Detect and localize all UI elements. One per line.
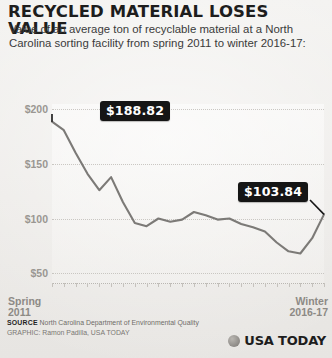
page-subtitle: Value of an average ton of recyclable ma… xyxy=(9,22,326,51)
x-axis-tick xyxy=(182,283,183,287)
line-chart: $50$100$150$200 $188.82 $103.84 Spring 2… xyxy=(0,92,332,297)
x-axis-tick xyxy=(123,283,124,287)
x-axis-tick xyxy=(241,283,242,287)
x-axis-tick xyxy=(229,283,230,287)
globe-icon xyxy=(228,335,240,347)
x-axis-tick xyxy=(312,283,313,287)
source-line: SOURCE North Carolina Department of Envi… xyxy=(7,318,328,327)
y-axis-tick-label: $100 xyxy=(2,213,48,225)
usa-today-logo-text: USA TODAY xyxy=(244,333,326,348)
x-axis-tick xyxy=(289,283,290,287)
x-axis-tick xyxy=(64,283,65,287)
callout-end-leader xyxy=(310,200,324,214)
x-axis-tick xyxy=(52,283,53,287)
x-axis-tick xyxy=(76,283,77,287)
x-axis-tick xyxy=(170,283,171,287)
x-axis-tick xyxy=(147,283,148,287)
x-axis-tick xyxy=(158,283,159,287)
usa-today-logo: USA TODAY xyxy=(228,333,326,348)
x-axis-label-left-line1: Spring xyxy=(8,295,41,307)
y-axis-tick-label: $50 xyxy=(2,267,48,279)
x-axis-tick xyxy=(218,283,219,287)
x-axis-tick xyxy=(324,283,325,287)
x-axis-tick xyxy=(194,283,195,287)
x-axis-tick xyxy=(87,283,88,287)
callout-start-value: $188.82 xyxy=(100,101,170,121)
x-axis-tick xyxy=(111,283,112,287)
source-label: SOURCE xyxy=(7,319,38,326)
x-axis-label-right-line2: 2016-17 xyxy=(289,306,328,318)
x-axis-label-left-line2: 2011 xyxy=(8,306,31,318)
callout-end-value: $103.84 xyxy=(238,182,308,202)
x-axis-label-right: Winter 2016-17 xyxy=(289,296,328,320)
x-axis-label-right-line1: Winter xyxy=(295,295,328,307)
x-axis-tick xyxy=(265,283,266,287)
y-axis-tick-label: $150 xyxy=(2,158,48,170)
y-axis-tick-label: $200 xyxy=(2,103,48,115)
x-axis-tick xyxy=(135,283,136,287)
x-axis-tick xyxy=(300,283,301,287)
x-axis-tick xyxy=(277,283,278,287)
plot-area: $188.82 $103.84 xyxy=(52,104,324,284)
y-axis-labels: $50$100$150$200 xyxy=(0,104,48,284)
x-axis-tick xyxy=(253,283,254,287)
infographic: RECYCLED MATERIAL LOSES VALUE Value of a… xyxy=(0,0,332,358)
x-axis-tick xyxy=(206,283,207,287)
x-axis-tick xyxy=(99,283,100,287)
x-axis-ticks xyxy=(52,283,324,288)
x-axis-label-left: Spring 2011 xyxy=(8,296,41,320)
source-text: North Carolina Department of Environment… xyxy=(40,319,199,326)
